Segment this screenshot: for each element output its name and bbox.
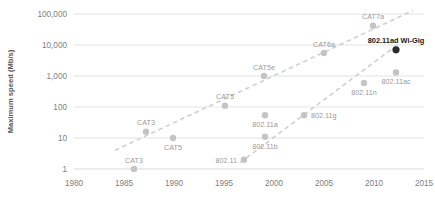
y-axis-tick-label: 1 bbox=[62, 165, 67, 174]
y-axis-tick-label: 100,000 bbox=[37, 10, 67, 19]
y-axis-tick-label: 1,000 bbox=[47, 72, 68, 81]
data-point-label: CAT3 bbox=[125, 156, 143, 165]
data-point-label: 802.11b bbox=[252, 142, 277, 151]
trendline-ethernet-cabling bbox=[115, 10, 413, 150]
data-point-label: CAT5 bbox=[216, 92, 234, 101]
data-point-marker bbox=[301, 112, 307, 118]
data-point-marker bbox=[392, 46, 399, 53]
data-point-marker bbox=[241, 156, 247, 162]
x-axis-tick-label: 2010 bbox=[365, 179, 384, 188]
x-axis-tick-label: 1995 bbox=[215, 179, 234, 188]
data-point-label: CAT7a bbox=[362, 12, 384, 21]
data-point-label: 802.11ac bbox=[381, 77, 410, 86]
data-point-marker bbox=[262, 112, 268, 118]
speed-vs-year-scatter-chart: 1101001,00010,000100,0001980198519901995… bbox=[0, 0, 435, 197]
x-axis-tick-label: 1990 bbox=[165, 179, 184, 188]
y-axis-tick-label: 10 bbox=[58, 134, 68, 143]
data-point-marker bbox=[393, 69, 399, 75]
data-point-marker bbox=[261, 73, 267, 79]
y-axis-tick-label: 10,000 bbox=[42, 41, 67, 50]
data-point-marker bbox=[361, 80, 367, 86]
data-point-label: 802.11a bbox=[252, 120, 277, 129]
data-point-label: 802.11 bbox=[216, 156, 237, 165]
data-point-label: CAT5e bbox=[253, 63, 275, 72]
x-axis-tick-label: 2005 bbox=[315, 179, 334, 188]
data-point-label: CAT3 bbox=[137, 118, 155, 127]
data-point-marker bbox=[131, 166, 137, 172]
data-point-label: 802.11n bbox=[351, 88, 376, 97]
data-point-label: 802.11ad Wi-Gig bbox=[368, 36, 425, 45]
x-axis-tick-label: 2015 bbox=[415, 179, 434, 188]
y-axis-title: Maximum speed (Mb/s) bbox=[6, 49, 15, 133]
data-point-marker bbox=[370, 22, 376, 28]
data-point-marker bbox=[170, 135, 176, 141]
data-point-label: CAT6a bbox=[313, 40, 335, 49]
data-point-marker bbox=[262, 134, 268, 140]
x-axis-tick-label: 1980 bbox=[65, 179, 84, 188]
data-point-marker bbox=[321, 50, 327, 56]
data-point-marker bbox=[222, 103, 228, 109]
x-axis-tick-label: 2000 bbox=[265, 179, 284, 188]
y-axis-tick-label: 100 bbox=[53, 103, 67, 112]
chart-container: 1101001,00010,000100,0001980198519901995… bbox=[0, 0, 435, 197]
data-point-marker bbox=[143, 128, 149, 134]
data-point-label: CAT5 bbox=[164, 143, 182, 152]
x-axis-tick-label: 1985 bbox=[115, 179, 134, 188]
data-point-label: 802.11g bbox=[311, 111, 336, 120]
